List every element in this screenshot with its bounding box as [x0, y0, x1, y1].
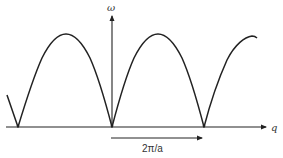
- diagram-svg: ω q 2π/a: [0, 0, 283, 158]
- dispersion-diagram: ω q 2π/a: [0, 0, 283, 158]
- dispersion-curve: [7, 34, 257, 127]
- omega-label: ω: [107, 2, 115, 13]
- minimum-point: [203, 125, 206, 128]
- minimum-point: [17, 125, 20, 128]
- minimum-point: [111, 125, 114, 128]
- q-label: q: [271, 122, 277, 133]
- period-label: 2π/a: [142, 143, 163, 154]
